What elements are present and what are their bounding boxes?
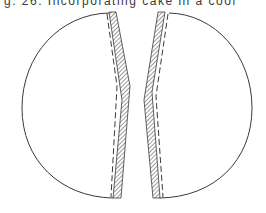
right-cake-half: [144, 12, 252, 198]
right-outer-arc: [160, 13, 252, 198]
left-outer-arc: [22, 13, 113, 198]
left-cake-half: [22, 12, 130, 198]
cake-diagram: [0, 0, 266, 213]
right-hatched-edge: [144, 12, 165, 198]
